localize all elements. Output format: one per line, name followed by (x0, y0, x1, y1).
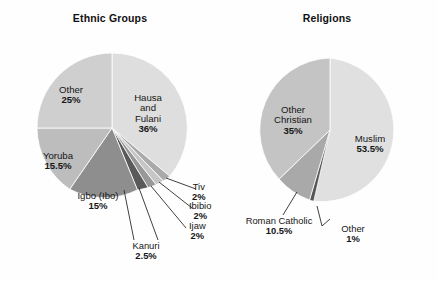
figure-canvas: Ethnic Groups (0, 0, 437, 281)
chart-panel-ethnic-groups: Ethnic Groups (0, 0, 220, 281)
leader-line-kanuri-inner (139, 188, 158, 240)
pie-callout-ijaw-value: 2% (189, 231, 206, 241)
pie-chart-ethnic-groups (0, 0, 220, 281)
pie-callout-kanuri-value: 2.5% (120, 251, 172, 261)
pie-callout-tiv-text: Tiv (193, 181, 205, 192)
pie-callout-ijaw: Ijaw 2% (189, 221, 206, 242)
pie-callout-kanuri-text: Kanuri (132, 240, 159, 251)
pie-callout-other: Other 1% (332, 224, 374, 245)
leader-line-roman-catholic (283, 192, 297, 215)
pie-callout-other-text: Other (341, 223, 364, 234)
pie-slice-other[interactable] (37, 53, 112, 128)
pie-callout-ibibio-text: Ibibio (189, 200, 211, 211)
pie-chart-religions (217, 0, 437, 281)
chart-panel-religions: Religions Muslim 53.5% Other Christian 3… (217, 0, 437, 281)
pie-callout-roman-catholic-value: 10.5% (245, 226, 313, 236)
pie-callout-roman-catholic: Roman Catholic 10.5% (245, 216, 313, 237)
pie-callout-ijaw-text: Ijaw (189, 220, 206, 231)
pie-callout-kanuri: Kanuri 2.5% (120, 241, 172, 262)
pie-callout-other-value: 1% (332, 234, 374, 244)
pie-callout-roman-catholic-text: Roman Catholic (246, 215, 313, 226)
leader-line-other (317, 206, 330, 226)
leader-line-kanuri (124, 190, 134, 240)
leader-line-ijaw (151, 186, 186, 228)
pie-callout-ibibio: Ibibio 2% (189, 201, 211, 222)
